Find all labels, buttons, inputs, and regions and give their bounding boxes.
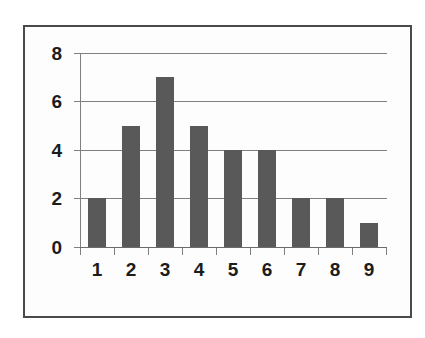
x-axis-label-6: 6: [250, 260, 284, 279]
x-axis-label-7: 7: [284, 260, 318, 279]
x-axis-line: [80, 247, 387, 248]
y-tick-8: [74, 53, 80, 54]
x-tick-boundary-6: [284, 248, 285, 255]
bar-category-7: [292, 198, 310, 247]
y-axis-line: [80, 53, 81, 248]
bar-category-6: [258, 150, 276, 247]
x-axis-label-3: 3: [148, 260, 182, 279]
x-tick-boundary-3: [182, 248, 183, 255]
x-tick-boundary-1: [114, 248, 115, 255]
x-tick-boundary-5: [250, 248, 251, 255]
y-axis-label-6: 6: [38, 92, 62, 111]
x-axis-label-2: 2: [114, 260, 148, 279]
x-axis-label-9: 9: [352, 260, 386, 279]
y-axis-label-0: 0: [38, 238, 62, 257]
bar-category-9: [360, 223, 378, 247]
chart-screenshot: 8 6 4 2 0 1 2 3 4 5 6 7 8 9: [0, 0, 425, 338]
bar-category-1: [88, 198, 106, 247]
y-axis-label-4: 4: [38, 141, 62, 160]
x-axis-label-1: 1: [80, 260, 114, 279]
x-tick-boundary-8: [352, 248, 353, 255]
bar-category-5: [224, 150, 242, 247]
gridline-6: [80, 101, 387, 102]
bar-category-4: [190, 126, 208, 247]
x-axis-label-5: 5: [216, 260, 250, 279]
x-tick-boundary-4: [216, 248, 217, 255]
bar-category-2: [122, 126, 140, 247]
gridline-8: [80, 53, 387, 54]
x-tick-boundary-2: [148, 248, 149, 255]
y-axis-label-8: 8: [38, 44, 62, 63]
x-tick-boundary-0: [80, 248, 81, 255]
chart-frame: 8 6 4 2 0 1 2 3 4 5 6 7 8 9: [23, 25, 412, 318]
y-tick-4: [74, 150, 80, 151]
x-axis-label-8: 8: [318, 260, 352, 279]
bar-category-8: [326, 198, 344, 247]
bar-category-3: [156, 77, 174, 247]
x-axis-label-4: 4: [182, 260, 216, 279]
y-tick-6: [74, 101, 80, 102]
x-tick-boundary-9: [386, 248, 387, 255]
y-axis-label-2: 2: [38, 189, 62, 208]
y-tick-2: [74, 198, 80, 199]
plot-area: 8 6 4 2 0 1 2 3 4 5 6 7 8 9: [25, 27, 410, 316]
x-tick-boundary-7: [318, 248, 319, 255]
